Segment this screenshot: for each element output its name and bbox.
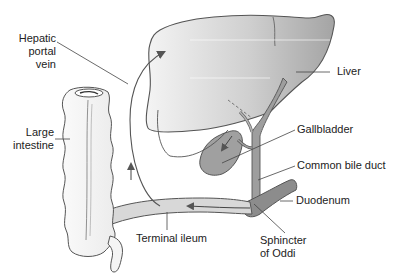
label-gallbladder: Gallbladder [297, 123, 353, 136]
terminal-ileum [108, 198, 252, 224]
label-duodenum: Duodenum [296, 194, 350, 207]
label-line: intestine [2, 139, 54, 152]
label-common-bile-duct: Common bile duct [297, 159, 386, 172]
label-line: portal [2, 45, 56, 58]
label-line: vein [2, 58, 56, 71]
label-line: Hepatic [2, 32, 56, 45]
leader-sphincter-of-oddi [254, 204, 285, 233]
label-line: Sphincter [260, 234, 306, 247]
large-intestine [62, 87, 122, 272]
label-sphincter-of-oddi: Sphincter of Oddi [260, 234, 306, 260]
label-large-intestine: Large intestine [2, 126, 54, 152]
label-hepatic-portal-vein: Hepatic portal vein [2, 32, 56, 71]
label-terminal-ileum: Terminal ileum [136, 232, 207, 245]
label-liver: Liver [337, 65, 361, 78]
enterohepatic-circulation-diagram: Hepatic portal vein Liver Large intestin… [0, 0, 395, 280]
label-line: Large [2, 126, 54, 139]
leader-common-bile-duct [258, 166, 295, 180]
leader-hepatic-portal-vein [57, 42, 128, 84]
label-line: of Oddi [260, 247, 306, 260]
